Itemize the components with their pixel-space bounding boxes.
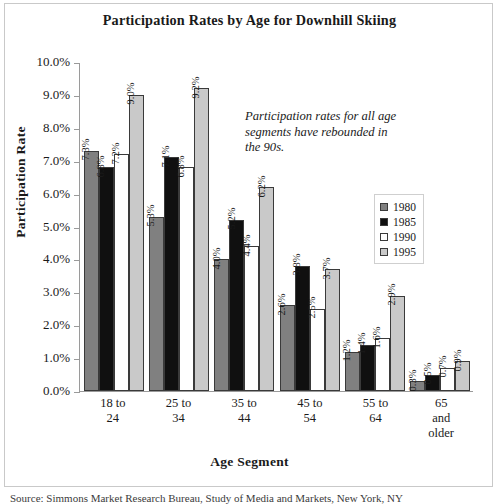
x-axis-category-line: 55 to <box>343 396 409 411</box>
y-axis-tick-mark <box>74 129 80 130</box>
legend-swatch-icon <box>380 203 388 211</box>
y-axis-tick-label: 1.0% <box>43 350 70 366</box>
x-axis-category-line: 64 <box>343 411 409 426</box>
y-axis-tick-mark <box>74 195 80 196</box>
bar-slot: 5.3% <box>149 63 164 391</box>
chart-legend: 1980198519901995 <box>374 194 424 264</box>
bar[interactable]: 4.4% <box>244 246 259 391</box>
legend-item[interactable]: 1985 <box>380 214 416 229</box>
x-axis-category-label: 18 to24 <box>80 396 146 441</box>
legend-item[interactable]: 1995 <box>380 244 416 259</box>
x-axis-category-line: 18 to <box>80 396 146 411</box>
x-axis-category-label: 25 to34 <box>146 396 212 441</box>
bar-slot: 9.0% <box>129 63 144 391</box>
bar[interactable]: 9.0% <box>129 95 144 391</box>
y-axis-tick-label: 3.0% <box>43 284 70 300</box>
legend-swatch-icon <box>380 248 388 256</box>
bar-value-label: 6.8% <box>176 155 187 177</box>
bar-value-label: 5.2% <box>226 208 237 230</box>
y-axis-tick-label: 6.0% <box>43 186 70 202</box>
legend-item[interactable]: 1980 <box>380 199 416 214</box>
x-axis-category-line: and <box>408 411 474 426</box>
y-axis-tick-mark <box>74 63 80 64</box>
legend-item-label: 1995 <box>393 246 416 258</box>
bar-value-label: 2.6% <box>277 294 288 316</box>
bar-value-label: 0.3% <box>407 369 418 391</box>
bar[interactable]: 5.3% <box>149 217 164 391</box>
x-axis-tick-labels: 18 to2425 to3435 to4445 to5455 to6465and… <box>80 396 474 441</box>
bar[interactable]: 9.2% <box>194 88 209 391</box>
chart-title: Participation Rates by Age for Downhill … <box>5 12 494 29</box>
legend-item-label: 1980 <box>393 201 416 213</box>
source-note: Source: Simmons Market Research Bureau, … <box>10 492 490 504</box>
bar[interactable]: 6.8% <box>99 167 114 391</box>
bar[interactable]: 6.2% <box>259 187 274 391</box>
x-axis-category-line: older <box>408 426 474 441</box>
bar-value-label: 7.1% <box>161 145 172 167</box>
chart-container: Participation Rates by Age for Downhill … <box>4 3 493 487</box>
bar-value-label: 2.5% <box>307 297 318 319</box>
legend-item[interactable]: 1990 <box>380 229 416 244</box>
legend-swatch-icon <box>380 233 388 241</box>
y-axis-tick-label: 5.0% <box>43 219 70 235</box>
y-axis-tick-label: 8.0% <box>43 120 70 136</box>
y-axis-tick-label: 4.0% <box>43 251 70 267</box>
bar-value-label: 6.8% <box>96 155 107 177</box>
x-axis-category-line: 65 <box>408 396 474 411</box>
bar-value-label: 9.2% <box>191 76 202 98</box>
bar[interactable]: 1.4% <box>360 345 375 391</box>
bar-slot: 0.5% <box>425 63 440 391</box>
bar[interactable]: 4.0% <box>214 259 229 391</box>
bar-value-label: 4.4% <box>241 234 252 256</box>
bar-value-label: 1.4% <box>357 333 368 355</box>
bar-group: 7.3%6.8%7.2%9.0% <box>81 63 146 391</box>
x-axis-category-line: 34 <box>146 411 212 426</box>
bar-value-label: 4.0% <box>211 247 222 269</box>
bar[interactable]: 2.5% <box>310 309 325 391</box>
bar[interactable]: 6.8% <box>179 167 194 391</box>
bar-value-label: 7.3% <box>81 139 92 161</box>
bar[interactable]: 7.3% <box>84 151 99 391</box>
legend-item-label: 1990 <box>393 231 416 243</box>
y-axis-tick-label: 0.0% <box>43 383 70 399</box>
bar-slot: 7.2% <box>114 63 129 391</box>
x-axis-category-label: 55 to64 <box>343 396 409 441</box>
y-axis-tick-label: 10.0% <box>36 54 70 70</box>
bar-slot: 7.3% <box>84 63 99 391</box>
bar[interactable]: 0.9% <box>455 361 470 391</box>
bar[interactable]: 7.2% <box>114 154 129 391</box>
y-axis-tick-mark <box>74 162 80 163</box>
y-axis-tick-mark <box>74 293 80 294</box>
x-axis-category-label: 65andolder <box>408 396 474 441</box>
x-axis-category-line: 24 <box>80 411 146 426</box>
bar[interactable]: 2.9% <box>390 296 405 391</box>
bar[interactable]: 1.6% <box>375 338 390 391</box>
bar-value-label: 1.6% <box>372 326 383 348</box>
y-axis-tick-mark <box>74 392 80 393</box>
bar-value-label: 0.9% <box>452 349 463 371</box>
bar-value-label: 6.2% <box>256 175 267 197</box>
bar-value-label: 7.2% <box>111 142 122 164</box>
legend-item-label: 1985 <box>393 216 416 228</box>
x-axis-title: Age Segment <box>5 454 494 470</box>
legend-swatch-icon <box>380 218 388 226</box>
bar-value-label: 3.8% <box>292 254 303 276</box>
y-axis-tick-label: 9.0% <box>43 87 70 103</box>
bar-value-label: 0.5% <box>422 363 433 385</box>
x-axis-category-line: 25 to <box>146 396 212 411</box>
y-axis-tick-mark <box>74 96 80 97</box>
bar-slot: 6.8% <box>99 63 114 391</box>
bar[interactable]: 3.7% <box>325 269 340 391</box>
bar[interactable]: 1.2% <box>345 352 360 391</box>
bar-value-label: 5.3% <box>146 205 157 227</box>
bar-value-label: 3.7% <box>322 257 333 279</box>
bar-value-label: 9.0% <box>126 83 137 105</box>
bar-value-label: 1.2% <box>342 340 353 362</box>
y-axis-title: Participation Rate <box>13 112 29 252</box>
bar-group: 5.3%7.1%6.8%9.2% <box>146 63 211 391</box>
bar[interactable]: 2.6% <box>280 305 295 391</box>
chart-annotation: Participation rates for all age segments… <box>245 109 397 156</box>
bar[interactable]: 3.8% <box>295 266 310 391</box>
x-axis-category-line: 35 to <box>211 396 277 411</box>
bar[interactable]: 7.1% <box>164 157 179 391</box>
